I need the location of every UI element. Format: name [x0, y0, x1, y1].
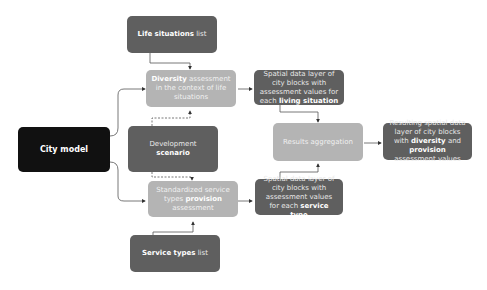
- living-layer-text: Spatial data layer of city blocks with a…: [259, 70, 339, 106]
- provision-text: Standardized service types provision ass…: [153, 186, 233, 213]
- result-layer-node: Resulting spatial data layer of city blo…: [383, 123, 472, 160]
- city-model-label: City model: [40, 145, 88, 154]
- service-type-layer-node: Spatial data layer of city blocks with a…: [255, 179, 343, 215]
- provision-assessment-node: Standardized service types provision ass…: [148, 181, 238, 217]
- service-types-text: Service types list: [142, 249, 208, 258]
- result-text: Resulting spatial data layer of city blo…: [388, 119, 467, 164]
- city-model-node: City model: [18, 127, 110, 172]
- service-layer-text: Spatial data layer of city blocks with a…: [260, 175, 338, 220]
- diversity-text: Diversity assessment in the context of l…: [151, 75, 231, 102]
- diversity-assessment-node: Diversity assessment in the context of l…: [146, 70, 236, 107]
- life-situations-text: Life situations list: [138, 30, 207, 39]
- service-types-node: Service types list: [130, 235, 220, 272]
- aggregation-label: Results aggregation: [283, 138, 353, 147]
- development-scenario-node: Development scenario: [128, 126, 218, 172]
- living-situation-layer-node: Spatial data layer of city blocks with a…: [254, 70, 344, 105]
- life-situations-node: Life situations list: [127, 16, 217, 53]
- results-aggregation-node: Results aggregation: [273, 123, 363, 161]
- development-text: Development scenario: [149, 140, 196, 158]
